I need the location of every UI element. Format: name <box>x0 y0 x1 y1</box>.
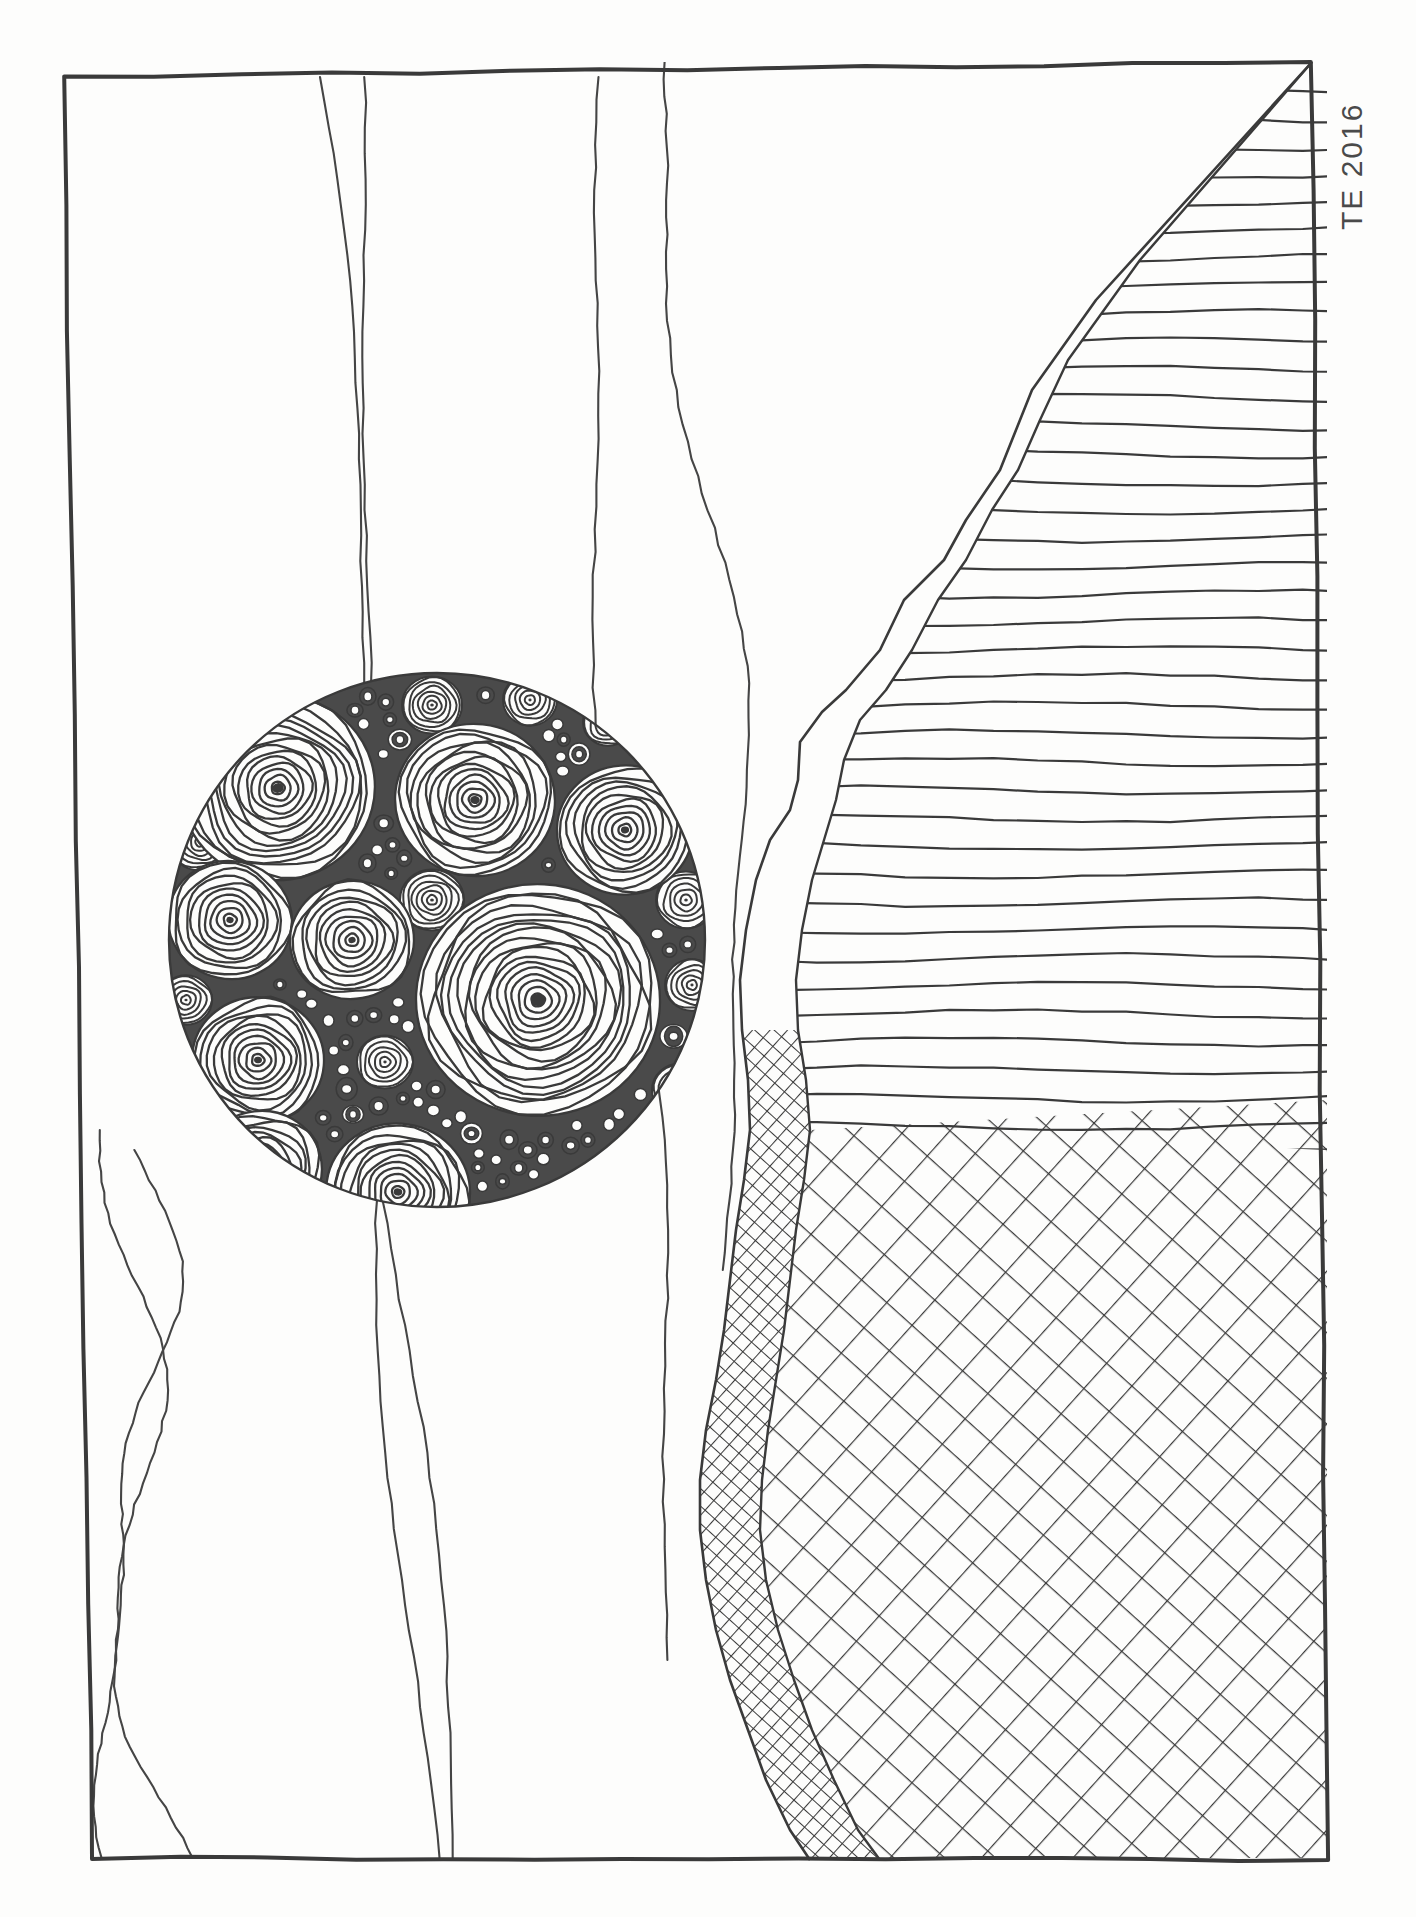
sphere-dot-47 <box>426 1081 445 1099</box>
sphere-dot-53 <box>388 729 411 750</box>
sphere-dot-50 <box>402 1020 414 1032</box>
sphere-medium-spiral-1 <box>402 677 462 734</box>
sphere-dot-52 <box>552 719 563 730</box>
sphere-dot-6 <box>366 1008 382 1023</box>
sphere-dot-13 <box>568 743 590 765</box>
sphere-dot-63 <box>474 1149 484 1159</box>
sphere-dot-36 <box>542 858 556 872</box>
sphere-dot-54 <box>557 766 569 776</box>
artist-signature: TE 2016 <box>1335 103 1368 230</box>
sphere-dot-20 <box>274 979 287 990</box>
sphere-dot-27 <box>634 1089 646 1101</box>
sphere-dot-51 <box>411 1081 422 1091</box>
ink-drawing-canvas: TE 2016 <box>0 0 1416 1917</box>
sphere-dot-31 <box>329 1046 339 1055</box>
sphere-dot-37 <box>359 854 376 873</box>
sphere-medium-spiral-10 <box>357 1035 413 1088</box>
sphere-dot-34 <box>680 936 696 952</box>
sphere-dot-22 <box>385 868 398 880</box>
sphere-dot-14 <box>339 1035 353 1051</box>
sphere-dot-5 <box>327 1127 343 1142</box>
sphere-dot-55 <box>316 1111 331 1126</box>
sphere-dot-44 <box>556 752 567 761</box>
sphere-dot-49 <box>306 999 317 1009</box>
sphere-dot-2 <box>519 1142 537 1158</box>
sphere-dot-62 <box>389 1015 399 1024</box>
sphere-dot-4 <box>374 815 394 832</box>
sphere-dot-28 <box>461 1123 483 1144</box>
sphere-dot-42 <box>651 929 663 939</box>
sphere-dot-30 <box>347 703 363 717</box>
sphere-dot-61 <box>613 1109 624 1120</box>
mountain-coarse-crosshatch <box>760 1100 1327 1860</box>
sphere-dot-64 <box>397 1092 410 1105</box>
sphere-dot-58 <box>543 729 555 741</box>
sphere-dot-40 <box>491 1155 501 1165</box>
sphere-dot-32 <box>385 838 399 852</box>
sphere-dot-11 <box>528 1170 538 1180</box>
sphere-dot-12 <box>378 750 388 759</box>
sphere-dot-3 <box>336 1078 357 1101</box>
sphere-dot-43 <box>337 1065 349 1075</box>
sphere-dot-38 <box>604 1118 615 1130</box>
sphere-dot-9 <box>455 1111 467 1123</box>
sphere-dot-41 <box>347 1011 363 1027</box>
sphere-dot-21 <box>413 1097 424 1107</box>
sphere-dot-19 <box>477 687 494 704</box>
sphere-dot-15 <box>472 1161 485 1173</box>
sphere-dot-17 <box>537 1153 549 1165</box>
sphere-dot-29 <box>369 1097 388 1115</box>
sphere-dot-25 <box>557 733 570 746</box>
sphere-dot-60 <box>297 990 307 999</box>
sphere-dot-16 <box>360 688 376 706</box>
sphere-dot-24 <box>496 1174 510 1189</box>
sphere-dot-7 <box>562 1137 579 1154</box>
sphere-dot-10 <box>397 850 412 866</box>
sphere-dot-57 <box>358 719 369 730</box>
sphere-dot-48 <box>511 1161 527 1175</box>
sphere-dot-26 <box>572 1120 583 1131</box>
sphere-dot-59 <box>442 1119 453 1128</box>
sphere-dot-66 <box>477 1181 488 1191</box>
sphere-dot-35 <box>538 1132 554 1148</box>
artboard: TE 2016 <box>0 0 1416 1917</box>
sphere-dot-1 <box>500 1130 518 1150</box>
sphere-dot-56 <box>323 1014 334 1026</box>
sphere-dot-46 <box>581 1133 595 1147</box>
sphere-dot-45 <box>393 998 404 1008</box>
sphere-dot-65 <box>378 694 394 710</box>
sphere-dot-23 <box>342 1106 363 1124</box>
sphere-dot-8 <box>383 713 396 727</box>
sphere-dot-39 <box>662 943 677 957</box>
sphere-dot-67 <box>372 845 383 855</box>
sphere-dot-33 <box>427 1105 439 1116</box>
signature-text: TE 2016 <box>1335 103 1368 230</box>
